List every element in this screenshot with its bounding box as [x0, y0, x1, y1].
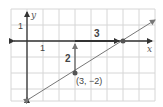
coordinate-diagram: y x 1 1 3 2 (3, −2) — [0, 0, 163, 107]
point-label: (3, −2) — [76, 76, 102, 86]
run-label: 3 — [94, 28, 100, 39]
y-axis-label: y — [30, 10, 37, 20]
rise-label: 2 — [65, 53, 71, 64]
grid — [11, 9, 155, 101]
point-6-0 — [121, 39, 126, 44]
y-tick-label: 1 — [18, 21, 23, 31]
graphed-line — [29, 20, 155, 99]
x-tick-label: 1 — [40, 43, 45, 53]
point-3-neg2 — [73, 71, 78, 76]
x-axis-label: x — [147, 44, 152, 54]
